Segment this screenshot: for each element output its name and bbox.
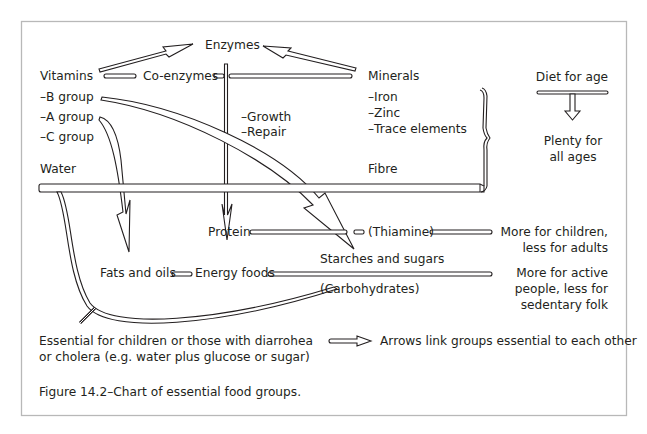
food-groups-diagram: Enzymes Vitamins Co-enzymes Minerals –B …	[0, 0, 647, 434]
mineral-iron: –Iron	[368, 90, 398, 104]
water-note-line-1: Essential for children or those with dia…	[39, 334, 313, 348]
node-starches-and-sugars: Starches and sugars	[320, 252, 444, 266]
protein-role-repair: –Repair	[241, 125, 287, 139]
mineral-trace-elements: –Trace elements	[368, 122, 467, 136]
diet-for-age-heading: Diet for age	[536, 70, 608, 84]
link-bar-protein-thiamine	[250, 230, 347, 234]
node-protein: Protein	[208, 225, 251, 239]
energy-note-3: sedentary folk	[521, 298, 609, 312]
figure-caption: Figure 14.2–Chart of essential food grou…	[39, 385, 301, 399]
arrow-coenzymes-to-protein	[222, 64, 232, 240]
energy-note-2: people, less for	[515, 282, 609, 296]
arrow-vitamins-to-enzymes	[99, 44, 193, 72]
node-water: Water	[40, 162, 77, 176]
minerals-brace	[480, 88, 490, 192]
mineral-zinc: –Zinc	[368, 106, 400, 120]
water-loop-tail-inner	[80, 308, 95, 323]
diet-for-age-down-arrow	[565, 94, 580, 120]
link-bar-vitamins-coenzymes	[104, 74, 136, 78]
protein-note-2: less for adults	[522, 241, 608, 255]
plenty-line-1: Plenty for	[544, 134, 604, 148]
arrow-water-loop	[57, 192, 337, 323]
node-vitamins: Vitamins	[40, 69, 93, 83]
link-bar-energy-starches	[268, 272, 492, 276]
arrow-minerals-to-enzymes	[263, 46, 356, 71]
node-energy-foods: Energy foods	[195, 266, 275, 280]
vitamin-group-b: –B group	[40, 90, 94, 104]
energy-note-1: More for active	[516, 266, 608, 280]
protein-role-growth: –Growth	[241, 110, 291, 124]
link-bar-coenzymes-minerals	[229, 74, 352, 78]
link-bar-thiamine-children	[430, 230, 492, 234]
water-fibre-bar	[39, 184, 484, 192]
link-bar-thiamine-stub	[354, 230, 364, 234]
node-minerals: Minerals	[368, 69, 419, 83]
legend-text: Arrows link groups essential to each oth…	[380, 334, 638, 348]
node-carbohydrates: (Carbohydrates)	[320, 282, 419, 296]
legend-arrow-icon	[329, 336, 371, 346]
vitamin-group-a: –A group	[40, 110, 94, 124]
node-thiamine: (Thiamine)	[368, 225, 434, 239]
vitamin-group-c: –C group	[40, 130, 94, 144]
node-fibre: Fibre	[368, 162, 398, 176]
water-note-line-2: or cholera (e.g. water plus glucose or s…	[39, 350, 310, 364]
node-enzymes: Enzymes	[205, 38, 260, 52]
node-co-enzymes: Co-enzymes	[143, 69, 218, 83]
protein-note-1: More for children,	[501, 225, 609, 239]
plenty-line-2: all ages	[549, 150, 596, 164]
node-fats-and-oils: Fats and oils	[100, 266, 176, 280]
